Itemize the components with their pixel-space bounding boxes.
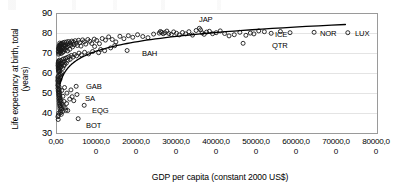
- data-point: [262, 30, 266, 34]
- x-tick-label-0: 0,00: [35, 137, 77, 147]
- scatter-chart: Life expectancy at birth, total (years) …: [0, 0, 402, 196]
- x-tick-2-line2: 0: [115, 147, 157, 157]
- plot-area: [0, 0, 402, 196]
- x-tick-1-line2: 0: [75, 147, 117, 157]
- data-point: [244, 33, 248, 37]
- point-annotation-sa: SA: [85, 95, 95, 103]
- data-point: [69, 88, 73, 92]
- data-point: [141, 35, 145, 39]
- point-annotation-lux: LUX: [355, 30, 369, 38]
- data-point: [63, 86, 67, 90]
- data-point: [118, 34, 122, 38]
- x-tick-label-60000: 60000,0 0: [275, 137, 317, 157]
- x-tick-0-line1: 0,00: [35, 137, 77, 147]
- data-point: [187, 30, 191, 34]
- x-tick-7-line1: 70000,0: [315, 137, 357, 147]
- data-point: [125, 49, 129, 53]
- data-point: [75, 93, 79, 97]
- data-point: [76, 117, 80, 121]
- x-tick-4-line1: 40000,0: [195, 137, 237, 147]
- x-tick-4-line2: 0: [195, 147, 237, 157]
- data-point: [72, 99, 76, 103]
- data-point: [288, 31, 292, 35]
- data-point: [70, 95, 74, 99]
- x-tick-label-10000: 10000,0 0: [75, 137, 117, 157]
- x-tick-label-30000: 30000,0 0: [155, 137, 197, 157]
- x-tick-label-80000: 80000,0 0: [355, 137, 397, 157]
- point-annotation-gab: GAB: [86, 83, 102, 91]
- x-tick-label-20000: 20000,0 0: [115, 137, 157, 157]
- data-point: [65, 91, 69, 95]
- point-annotation-ice: ICE: [275, 31, 287, 39]
- point-annotation-nor: NOR: [320, 30, 336, 38]
- data-point: [126, 34, 130, 38]
- x-tick-8-line2: 0: [355, 147, 397, 157]
- point-annotation-qtr: QTR: [272, 42, 288, 50]
- x-tick-5-line1: 50000,0: [235, 137, 277, 147]
- x-tick-6-line2: 0: [275, 147, 317, 157]
- x-tick-7-line2: 0: [315, 147, 357, 157]
- data-point: [74, 84, 78, 88]
- point-annotation-jap: JAP: [199, 16, 212, 24]
- data-point: [93, 45, 97, 49]
- data-point: [131, 35, 135, 39]
- point-annotation-eqg: EQG: [92, 107, 108, 115]
- x-tick-6-line1: 60000,0: [275, 137, 317, 147]
- data-point: [68, 97, 72, 101]
- x-tick-1-line1: 10000,0: [75, 137, 117, 147]
- x-tick-label-50000: 50000,0 0: [235, 137, 277, 157]
- data-point: [122, 37, 126, 41]
- x-tick-3-line2: 0: [155, 147, 197, 157]
- point-annotation-bah: BAH: [142, 50, 157, 58]
- data-point: [97, 42, 101, 46]
- data-point: [241, 41, 245, 45]
- data-point: [82, 103, 86, 107]
- x-tick-5-line2: 0: [235, 147, 277, 157]
- x-tick-2-line1: 20000,0: [115, 137, 157, 147]
- data-point: [146, 36, 150, 40]
- x-axis-title: GDP per capita (constant 2000 US$): [60, 172, 380, 182]
- x-tick-label-40000: 40000,0 0: [195, 137, 237, 157]
- point-annotation-bot: BOT: [86, 122, 101, 130]
- x-tick-3-line1: 30000,0: [155, 137, 197, 147]
- data-point: [227, 34, 231, 38]
- x-tick-label-70000: 70000,0 0: [315, 137, 357, 157]
- data-point: [346, 31, 350, 35]
- data-point: [152, 32, 156, 36]
- data-point: [107, 35, 111, 39]
- x-tick-8-line1: 80000,0: [355, 137, 397, 147]
